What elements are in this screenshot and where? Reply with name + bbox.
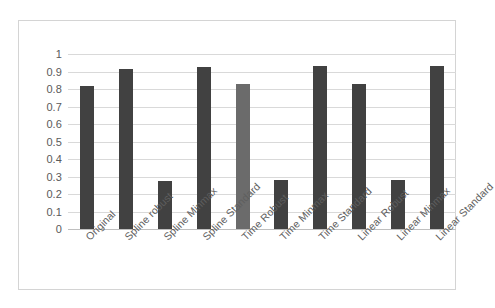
y-axis-tick-label: 0.2 — [46, 188, 62, 200]
y-axis-tick-label: 0.1 — [46, 206, 62, 218]
chart-frame: 10.90.80.70.60.50.40.30.20.10 OriginalSp… — [18, 20, 456, 290]
bar-slot — [68, 54, 107, 229]
bar-slot — [107, 54, 146, 229]
y-axis-tick-label: 0.8 — [46, 83, 62, 95]
y-axis: 10.90.80.70.60.50.40.30.20.10 — [37, 54, 66, 229]
y-axis-tick-label: 0 — [56, 223, 62, 235]
x-axis: OriginalSpline robustSpline MinmaxSpline… — [68, 230, 456, 308]
y-axis-tick-label: 0.4 — [46, 153, 62, 165]
y-axis-tick-label: 1 — [56, 48, 62, 60]
y-axis-tick-label: 0.9 — [46, 66, 62, 78]
y-axis-tick-label: 0.3 — [46, 171, 62, 183]
y-axis-tick-label: 0.7 — [46, 101, 62, 113]
y-axis-tick-label: 0.6 — [46, 118, 62, 130]
y-axis-tick-label: 0.5 — [46, 136, 62, 148]
bar[interactable] — [119, 69, 133, 229]
bar[interactable] — [80, 86, 94, 230]
